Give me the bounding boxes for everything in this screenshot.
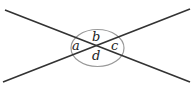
angle-label-a: a: [72, 38, 80, 53]
diagram-svg: a b c d: [0, 0, 191, 87]
angle-label-c: c: [111, 38, 119, 53]
diagram: a b c d: [0, 0, 191, 87]
angle-label-d: d: [92, 48, 100, 63]
angle-label-b: b: [92, 29, 100, 44]
